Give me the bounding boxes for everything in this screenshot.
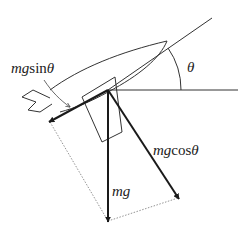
mg-sin-theta-arrow xyxy=(49,90,108,122)
mg-sin-theta-label: mgsinθ xyxy=(11,61,54,76)
mg-cos-theta-label: mgcosθ xyxy=(153,143,199,158)
aircraft-wing xyxy=(82,77,122,142)
theta-label: θ xyxy=(187,60,194,75)
force-diagram: θ mgsinθ mgcosθ mg xyxy=(0,0,250,251)
dotted-construction-line-bottom xyxy=(108,198,178,221)
mg-label: mg xyxy=(112,184,130,199)
angle-arc xyxy=(168,48,181,90)
label-pointer-line xyxy=(44,80,70,107)
flight-path-line xyxy=(108,18,212,90)
diagram-svg xyxy=(0,0,250,251)
aircraft-tail xyxy=(22,90,52,112)
